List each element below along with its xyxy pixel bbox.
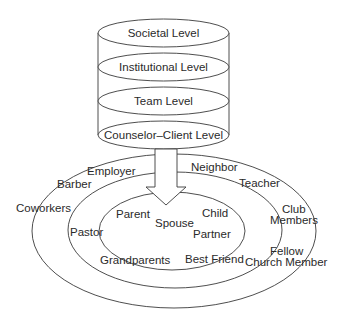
down-arrow-icon [146, 149, 186, 205]
label-best-friend: Best Friend [185, 253, 244, 265]
label-partner: Partner [193, 228, 231, 240]
outer-circle-labels: Coworkers [16, 202, 71, 214]
label-child: Child [202, 207, 228, 219]
label-barber: Barber [57, 178, 92, 190]
label-grandparents: Grandparents [100, 254, 171, 266]
middle-circle-labels: Employer Neighbor Barber Teacher Pastor … [57, 161, 328, 268]
label-coworkers: Coworkers [16, 202, 71, 214]
levels-cylinder: Societal Level Institutional Level Team … [98, 19, 229, 149]
label-teacher: Teacher [239, 177, 280, 189]
level-label-team: Team Level [134, 95, 193, 107]
label-members: Members [270, 214, 318, 226]
label-employer: Employer [87, 165, 136, 177]
level-label-institutional: Institutional Level [119, 61, 208, 73]
level-label-counselor-client: Counselor–Client Level [104, 129, 223, 141]
label-pastor: Pastor [70, 226, 103, 238]
label-spouse: Spouse [155, 217, 194, 229]
label-church-member: Church Member [245, 256, 328, 268]
label-parent: Parent [116, 208, 151, 220]
diagram-canvas: Societal Level Institutional Level Team … [0, 0, 340, 321]
label-neighbor: Neighbor [191, 161, 238, 173]
level-label-societal: Societal Level [128, 27, 200, 39]
inner-circle-labels: Parent Spouse Child Partner Grandparents… [100, 207, 244, 266]
